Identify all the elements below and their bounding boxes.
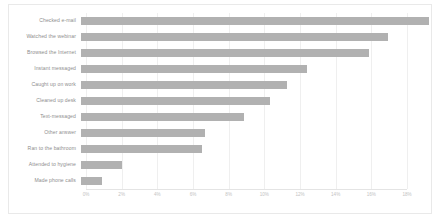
chart-bar-track bbox=[81, 141, 431, 157]
chart-bar-row: Browsed the Internet bbox=[9, 45, 431, 61]
chart-x-tick-label: 16% bbox=[367, 192, 376, 197]
chart-bar-row: Made phone calls bbox=[9, 173, 431, 189]
chart-bar[interactable] bbox=[81, 177, 102, 185]
chart-bar-row: Ran to the bathroom bbox=[9, 141, 431, 157]
chart-bar[interactable] bbox=[81, 49, 369, 57]
chart-x-axis-line bbox=[86, 189, 407, 190]
chart-category-label: Browsed the Internet bbox=[9, 50, 81, 55]
chart-bar[interactable] bbox=[81, 161, 122, 169]
chart-category-label: Attended to hygiene bbox=[9, 162, 81, 167]
chart-bar-row: Cleaned up desk bbox=[9, 93, 431, 109]
chart-bar[interactable] bbox=[81, 33, 388, 41]
chart-bar-track bbox=[81, 45, 431, 61]
chart-bar[interactable] bbox=[81, 81, 287, 89]
chart-bar[interactable] bbox=[81, 65, 307, 73]
chart-x-tick-label: 6% bbox=[190, 192, 197, 197]
chart-bar[interactable] bbox=[81, 129, 205, 137]
chart-bar-row: Instant messaged bbox=[9, 61, 431, 77]
chart-bar-track bbox=[81, 93, 431, 109]
chart-bar-track bbox=[81, 109, 431, 125]
chart-plot-area: Checked e-mailWatched the webinarBrowsed… bbox=[9, 5, 431, 213]
chart-category-label: Watched the webinar bbox=[9, 34, 81, 39]
chart-bar-row: Watched the webinar bbox=[9, 29, 431, 45]
chart-category-label: Instant messaged bbox=[9, 66, 81, 71]
chart-x-tick-label: 8% bbox=[225, 192, 232, 197]
chart-bar-track bbox=[81, 77, 431, 93]
chart-bar-track bbox=[81, 173, 431, 189]
chart-bar-row: Checked e-mail bbox=[9, 13, 431, 29]
chart-x-tick-label: 4% bbox=[154, 192, 161, 197]
chart-bar-row: Other answer bbox=[9, 125, 431, 141]
chart-x-tick-label: 0% bbox=[83, 192, 90, 197]
chart-bar[interactable] bbox=[81, 97, 270, 105]
chart-bar-track bbox=[81, 13, 431, 29]
chart-bar-row: Attended to hygiene bbox=[9, 157, 431, 173]
chart-category-label: Checked e-mail bbox=[9, 18, 81, 23]
chart-x-tick-label: 12% bbox=[295, 192, 304, 197]
chart-category-label: Caught up on work bbox=[9, 82, 81, 87]
chart-x-tick-label: 10% bbox=[260, 192, 269, 197]
chart-bar[interactable] bbox=[81, 145, 202, 153]
chart-bar-track bbox=[81, 125, 431, 141]
chart-bar-track bbox=[81, 157, 431, 173]
chart-category-label: Cleaned up desk bbox=[9, 98, 81, 103]
chart-category-label: Text-messaged bbox=[9, 114, 81, 119]
chart-bar[interactable] bbox=[81, 113, 244, 121]
chart-x-tick-label: 18% bbox=[402, 192, 411, 197]
chart-frame: Checked e-mailWatched the webinarBrowsed… bbox=[8, 4, 432, 214]
chart-x-axis-ticks: 0%2%4%6%8%10%12%14%16%18% bbox=[86, 192, 407, 204]
chart-category-label: Ran to the bathroom bbox=[9, 146, 81, 151]
chart-x-tick-label: 2% bbox=[118, 192, 125, 197]
chart-x-tick-label: 14% bbox=[331, 192, 340, 197]
chart-bar[interactable] bbox=[81, 17, 429, 25]
chart-bar-track bbox=[81, 61, 431, 77]
chart-bar-row: Text-messaged bbox=[9, 109, 431, 125]
chart-bar-row: Caught up on work bbox=[9, 77, 431, 93]
chart-bar-rows: Checked e-mailWatched the webinarBrowsed… bbox=[9, 13, 431, 189]
chart-category-label: Other answer bbox=[9, 130, 81, 135]
chart-bar-track bbox=[81, 29, 431, 45]
chart-category-label: Made phone calls bbox=[9, 178, 81, 183]
